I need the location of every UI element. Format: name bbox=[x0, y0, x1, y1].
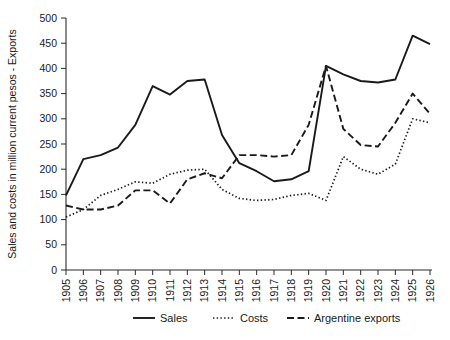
y-axis-tick-label: 0 bbox=[51, 264, 57, 276]
x-axis-tick-label: 1909 bbox=[129, 279, 141, 303]
y-axis-tick-label: 250 bbox=[39, 138, 57, 150]
x-axis-tick-label: 1908 bbox=[112, 279, 124, 303]
x-axis-tick-label: 1918 bbox=[285, 279, 297, 303]
x-axis-tick-label: 1914 bbox=[216, 279, 228, 303]
y-axis-title: Sales and costs in million current pesos… bbox=[6, 29, 18, 258]
x-axis-tick-label: 1921 bbox=[337, 279, 349, 303]
x-axis-tick-label: 1905 bbox=[60, 279, 72, 303]
x-axis-tick-label: 1912 bbox=[181, 279, 193, 303]
y-axis-tick-label: 300 bbox=[39, 112, 57, 124]
data-series-group bbox=[66, 36, 430, 217]
x-axis-tick-label: 1919 bbox=[302, 279, 314, 303]
x-axis-tick-label: 1924 bbox=[389, 279, 401, 303]
y-axis-tick-label: 350 bbox=[39, 87, 57, 99]
x-axis-tick-label: 1911 bbox=[164, 279, 176, 302]
x-axis-tick-label: 1913 bbox=[198, 279, 210, 303]
y-axis-tick-label: 200 bbox=[39, 163, 57, 175]
chart-container: Sales and costs in million current pesos… bbox=[0, 0, 450, 340]
x-axis-tick-label: 1907 bbox=[94, 279, 106, 303]
y-axis-label: Sales and costs in million current pesos… bbox=[6, 29, 18, 258]
y-axis-tick-label: 400 bbox=[39, 62, 57, 74]
y-axis-tick-label: 150 bbox=[39, 188, 57, 200]
x-axis-tick-label: 1923 bbox=[372, 279, 384, 303]
x-axis-tick-label: 1925 bbox=[406, 279, 418, 303]
x-axis-tick-label: 1926 bbox=[424, 279, 436, 303]
series-line-argentine-exports bbox=[66, 66, 430, 210]
x-axis-tick-label: 1915 bbox=[233, 279, 245, 303]
chart-legend: SalesCostsArgentine exports bbox=[133, 312, 401, 324]
series-line-sales bbox=[66, 36, 430, 196]
legend-label-sales: Sales bbox=[160, 312, 188, 324]
x-axis-tick-label: 1922 bbox=[354, 279, 366, 303]
legend-label-costs: Costs bbox=[240, 312, 269, 324]
x-axis-tick-label: 1906 bbox=[77, 279, 89, 303]
x-axis-tick-label: 1920 bbox=[320, 279, 332, 303]
legend-label-argentine-exports: Argentine exports bbox=[314, 312, 401, 324]
x-axis: 1905190619071908190919101911191219131914… bbox=[60, 270, 436, 302]
y-axis-tick-label: 50 bbox=[45, 238, 57, 250]
y-axis-tick-label: 450 bbox=[39, 37, 57, 49]
y-axis-tick-label: 500 bbox=[39, 12, 57, 24]
y-axis: 050100150200250300350400450500 bbox=[39, 12, 66, 276]
x-axis-tick-label: 1910 bbox=[146, 279, 158, 303]
y-axis-tick-label: 100 bbox=[39, 213, 57, 225]
x-axis-tick-label: 1916 bbox=[250, 279, 262, 303]
line-chart: Sales and costs in million current pesos… bbox=[0, 0, 450, 340]
x-axis-tick-label: 1917 bbox=[268, 279, 280, 303]
